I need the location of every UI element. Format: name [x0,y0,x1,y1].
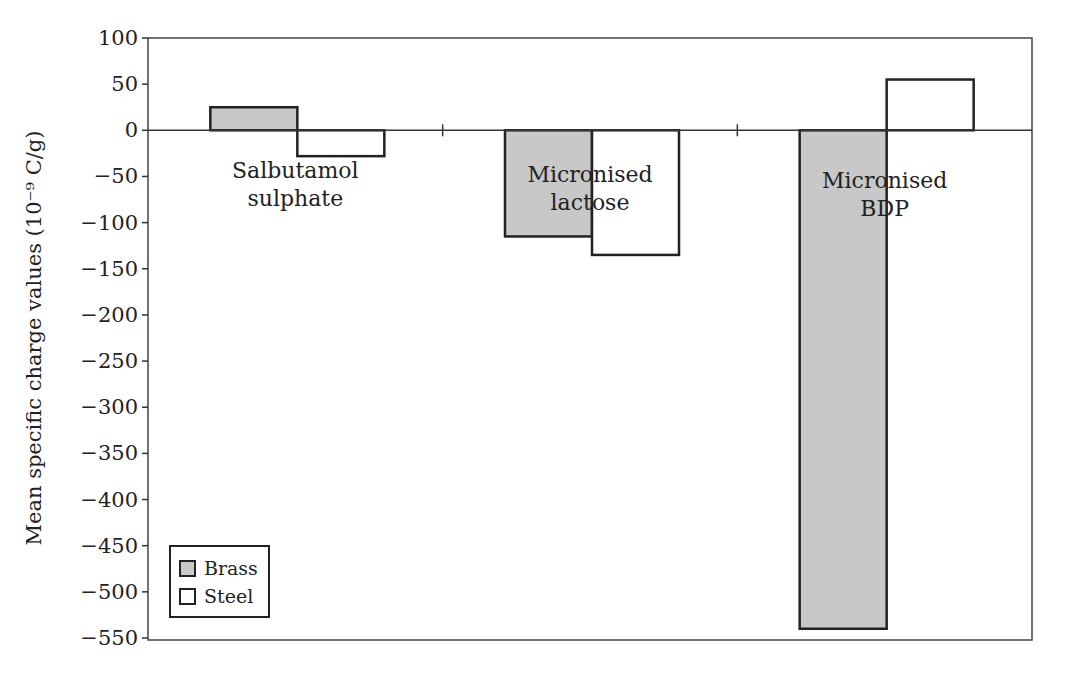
category-label: Micronised [527,162,652,187]
y-tick-label: −100 [80,211,138,235]
y-tick-label: 100 [98,26,138,50]
y-tick-label: 50 [111,72,138,96]
y-tick-label: 0 [125,118,138,142]
legend-swatch-brass [179,560,196,577]
y-tick-label: −550 [80,626,138,650]
y-axis-label: Mean specific charge values (10⁻⁹ C/g) [22,131,46,546]
legend-label-brass: Brass [204,557,258,579]
category-label: lactose [551,190,630,215]
category-label: Micronised [822,168,947,193]
y-tick-label: −200 [80,303,138,327]
y-tick-label: −150 [80,257,138,281]
bar-chart: 100500−50−100−150−200−250−300−350−400−45… [0,0,1071,682]
category-label: sulphate [247,186,343,211]
y-tick-label: −450 [80,534,138,558]
y-axis: 100500−50−100−150−200−250−300−350−400−45… [80,26,148,650]
category-label: Salbutamol [232,158,359,183]
legend-item-steel: Steel [179,585,253,607]
bar-steel [297,130,384,156]
bar-brass [210,107,297,130]
y-tick-label: −250 [80,349,138,373]
legend-label-steel: Steel [204,585,253,607]
legend-swatch-steel [179,588,196,605]
category-label: BDP [860,196,909,221]
y-tick-label: −350 [80,441,138,465]
legend-item-brass: Brass [179,557,258,579]
y-tick-label: −400 [80,488,138,512]
y-tick-label: −500 [80,580,138,604]
legend: Brass Steel [169,545,270,618]
y-tick-label: −50 [94,164,138,188]
bar-steel [887,80,974,131]
y-tick-label: −300 [80,395,138,419]
